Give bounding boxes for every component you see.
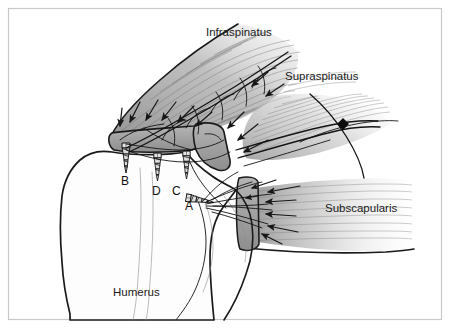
anatomical-illustration: Infraspinatus Supraspinatus Subscapulari… bbox=[0, 0, 450, 328]
figure-root: Infraspinatus Supraspinatus Subscapulari… bbox=[0, 0, 450, 328]
anchor-label-a: A bbox=[185, 199, 193, 213]
anchor-label-b: B bbox=[121, 174, 129, 188]
label-supraspinatus: Supraspinatus bbox=[285, 70, 359, 82]
label-subscapularis: Subscapularis bbox=[325, 202, 397, 214]
anchor-label-d: D bbox=[152, 184, 161, 198]
label-infraspinatus: Infraspinatus bbox=[206, 26, 272, 38]
label-humerus: Humerus bbox=[113, 286, 160, 298]
subscapularis-muscle bbox=[236, 177, 414, 253]
anchor-label-c: C bbox=[172, 184, 181, 198]
